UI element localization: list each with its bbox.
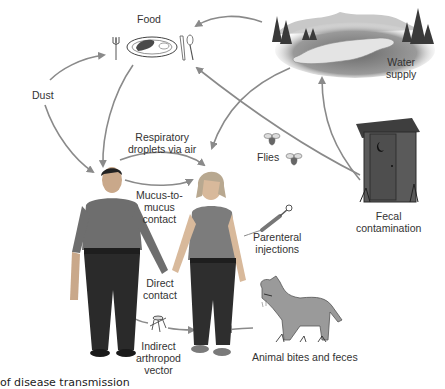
figure-caption: of disease transmission (0, 376, 130, 389)
label-arthropod: Indirect arthropod vector (136, 340, 181, 376)
mosquito-icon (150, 316, 166, 332)
label-fecal-line1: Fecal (356, 210, 421, 222)
label-parenteral-line2: injections (253, 243, 301, 255)
label-respiratory-line2: droplets via air (128, 143, 196, 155)
label-water-line1: Water (386, 56, 416, 68)
label-parenteral-line1: Parenteral (253, 231, 301, 243)
disease-transmission-diagram: Food Water supply Dust Respiratory dropl… (0, 0, 445, 389)
label-water-line2: supply (386, 68, 416, 80)
label-direct-line2: contact (143, 289, 177, 301)
label-mucus-line3: contact (136, 213, 183, 225)
syringe-icon (262, 205, 292, 230)
label-mucus-line2: mucus (136, 201, 183, 213)
label-direct-line1: Direct (143, 277, 177, 289)
label-food: Food (137, 13, 161, 25)
label-arthropod-line2: arthropod (136, 352, 181, 364)
outhouse-icon (356, 118, 420, 202)
label-fecal: Fecal contamination (356, 210, 421, 234)
label-respiratory: Respiratory droplets via air (128, 131, 196, 155)
label-direct-contact: Direct contact (143, 277, 177, 301)
label-respiratory-line1: Respiratory (128, 131, 196, 143)
label-arthropod-line3: vector (136, 364, 181, 376)
label-parenteral: Parenteral injections (253, 231, 301, 255)
label-fecal-line2: contamination (356, 222, 421, 234)
dog-icon (261, 276, 342, 342)
label-animal: Animal bites and feces (252, 351, 358, 363)
label-dust: Dust (32, 89, 54, 101)
plate-fork-knife-spoon-icon (113, 35, 193, 60)
label-water-supply: Water supply (386, 56, 416, 80)
label-arthropod-line1: Indirect (136, 340, 181, 352)
label-mucus: Mucus-to- mucus contact (136, 189, 183, 225)
label-flies: Flies (257, 151, 279, 163)
label-mucus-line1: Mucus-to- (136, 189, 183, 201)
